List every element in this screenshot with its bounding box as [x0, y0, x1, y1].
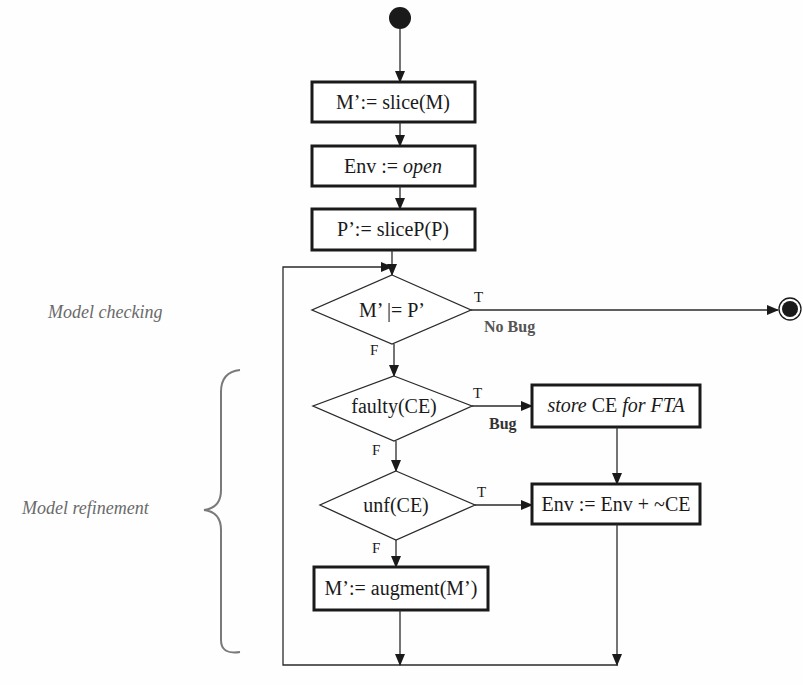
- node-faulty-check-label: faulty(CE): [351, 395, 437, 418]
- edge-label-true-1: T: [474, 289, 483, 305]
- start-state-icon: [389, 7, 411, 29]
- flowchart-svg: M’:= slice(M) Env := open P’:= sliceP(P)…: [0, 0, 803, 685]
- store-ce-plain: CE: [587, 394, 623, 416]
- edge-label-false-1: F: [370, 342, 378, 358]
- edge-label-no-bug: No Bug: [484, 318, 535, 336]
- node-unf-check-label: unf(CE): [363, 494, 429, 517]
- store-ce-italic-1: store: [547, 394, 586, 416]
- node-slice-model: M’:= slice(M): [312, 82, 475, 122]
- annotation-model-checking: Model checking: [47, 302, 162, 322]
- edge-label-false-2: F: [372, 442, 380, 458]
- edge-label-true-2: T: [473, 385, 482, 401]
- node-env-open-label: Env := open: [344, 155, 442, 178]
- node-augment-model-label: M’:= augment(M’): [325, 577, 478, 600]
- node-env-update-label: Env := Env + ~CE: [542, 493, 691, 515]
- flowchart-canvas: M’:= slice(M) Env := open P’:= sliceP(P)…: [0, 0, 803, 685]
- end-state-icon: [779, 298, 801, 320]
- node-slice-property: P’:= sliceP(P): [312, 209, 475, 250]
- node-model-check-label: M’ |= P’: [359, 299, 425, 322]
- env-open-italic: open: [403, 155, 442, 178]
- store-ce-italic-2: for FTA: [622, 394, 685, 417]
- node-env-open: Env := open: [312, 146, 475, 186]
- node-store-ce: store CE for FTA: [532, 385, 700, 427]
- node-augment-model: M’:= augment(M’): [314, 567, 488, 610]
- node-env-update: Env := Env + ~CE: [532, 484, 700, 524]
- edge-label-false-3: F: [372, 540, 380, 556]
- node-store-ce-label: store CE for FTA: [547, 394, 685, 417]
- env-open-plain: Env :=: [344, 155, 403, 177]
- annotation-model-refinement: Model refinement: [21, 498, 150, 518]
- node-slice-model-label: M’:= slice(M): [336, 91, 450, 114]
- edge-label-bug: Bug: [489, 415, 517, 433]
- edge-label-true-3: T: [477, 484, 486, 500]
- node-slice-property-label: P’:= sliceP(P): [337, 218, 449, 241]
